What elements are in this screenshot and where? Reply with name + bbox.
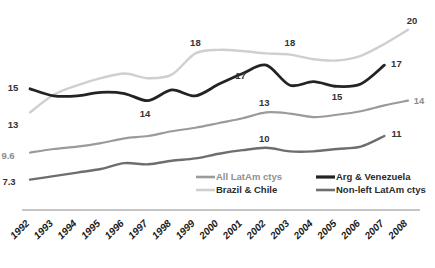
x-tick-2003: 2003: [267, 217, 292, 242]
value-label-left-73: 7.3: [2, 176, 15, 187]
x-tick-2006: 2006: [338, 217, 363, 242]
series-lines: [30, 30, 408, 180]
x-tick-2000: 2000: [196, 217, 221, 242]
value-label-right-11: 11: [391, 128, 402, 139]
legend-label-brazil-chile: Brazil & Chile: [216, 184, 277, 195]
value-label-mid-13: 13: [259, 97, 270, 108]
legend-label-arg-venezuela: Arg & Venezuela: [336, 171, 411, 182]
x-tick-1994: 1994: [55, 217, 79, 241]
value-label-mid-18a: 18: [190, 37, 201, 48]
legend-label-non-left-latam-ctys: Non-left LatAm ctys: [336, 184, 426, 195]
value-annotations: 15139.67.31418171813101520171411: [1, 15, 425, 187]
value-label-left-15: 15: [8, 82, 19, 93]
x-tick-1992: 1992: [8, 217, 32, 241]
chart-legend: All LatAm ctysArg & VenezuelaBrazil & Ch…: [196, 171, 426, 195]
x-tick-2005: 2005: [314, 217, 339, 242]
series-line-brazil-chile: [30, 30, 408, 113]
value-label-right-14: 14: [414, 95, 425, 106]
value-label-mid-18b: 18: [285, 37, 296, 48]
x-tick-1996: 1996: [102, 217, 126, 241]
x-tick-2004: 2004: [291, 217, 316, 242]
value-label-right-17: 17: [391, 58, 402, 69]
value-label-right-20: 20: [407, 15, 418, 26]
value-label-mid-10: 10: [259, 133, 270, 144]
value-label-left-96: 9.6: [1, 150, 14, 161]
legend-label-all-latam-ctys: All LatAm ctys: [216, 171, 282, 182]
series-line-non-left-latam-ctys: [30, 136, 384, 180]
value-label-mid-15: 15: [332, 91, 343, 102]
x-tick-1998: 1998: [150, 217, 174, 241]
x-tick-2002: 2002: [243, 217, 268, 242]
chart-canvas: 15139.67.31418171813101520171411 1992199…: [0, 0, 435, 268]
x-tick-1999: 1999: [173, 217, 197, 241]
x-tick-1993: 1993: [32, 217, 56, 241]
value-label-mid-14: 14: [140, 108, 151, 119]
x-tick-1997: 1997: [126, 217, 150, 241]
value-label-left-13: 13: [8, 119, 19, 130]
x-tick-2007: 2007: [362, 217, 387, 242]
x-tick-2008: 2008: [385, 217, 410, 242]
line-chart: 15139.67.31418171813101520171411 1992199…: [0, 0, 435, 268]
value-label-mid-17: 17: [235, 70, 246, 81]
x-tick-2001: 2001: [220, 217, 245, 242]
x-tick-1995: 1995: [79, 217, 103, 241]
x-axis-tick-labels: 1992199319941995199619971998199920002001…: [8, 217, 410, 242]
series-line-all-latam-ctys: [30, 101, 408, 153]
